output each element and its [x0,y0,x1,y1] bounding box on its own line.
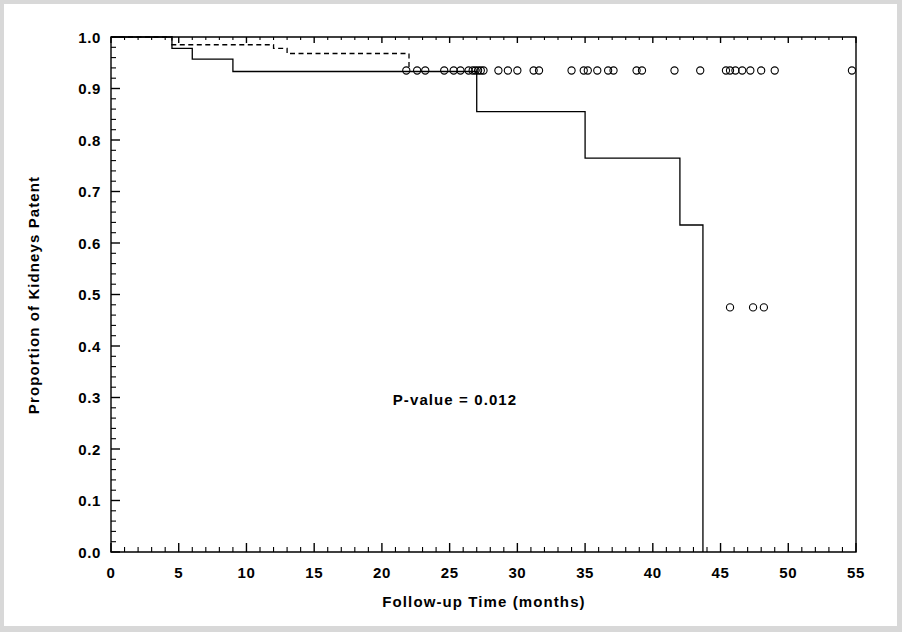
page-scan-edges [0,0,902,632]
y-tick-label: 0.3 [78,389,101,406]
censoring-mark [739,67,746,74]
x-axis-title: Follow-up Time (months) [382,593,585,610]
x-tick-label: 50 [779,564,797,581]
y-tick-label: 0.1 [78,492,101,509]
km-curve-solid [111,37,703,552]
censoring-mark [848,67,855,74]
censoring-mark [610,67,617,74]
censoring-mark [749,304,756,311]
censoring-marks-layer [403,67,856,311]
y-tick-label: 0.6 [78,235,101,252]
censoring-mark [504,67,511,74]
censoring-mark [726,304,733,311]
kaplan-meier-plot: 0510152025303540455055 0.00.10.20.30.40.… [0,0,902,632]
x-axis-ticks [111,37,856,552]
x-tick-label: 35 [576,564,594,581]
censoring-mark [568,67,575,74]
censoring-mark [760,304,767,311]
censoring-mark [414,67,421,74]
censoring-mark [671,67,678,74]
y-axis-ticks [111,37,120,552]
y-tick-label: 1.0 [78,29,101,46]
censoring-mark [638,67,645,74]
p-value-annotation: P-value = 0.012 [393,391,518,408]
x-axis-tick-labels: 0510152025303540455055 [107,564,865,581]
censoring-mark [594,67,601,74]
censoring-mark [697,67,704,74]
y-tick-label: 0.4 [78,338,101,355]
y-tick-label: 0.2 [78,441,101,458]
y-tick-label: 0.0 [78,544,101,561]
x-tick-label: 40 [644,564,662,581]
censoring-mark [441,67,448,74]
y-tick-label: 0.7 [78,183,101,200]
x-tick-label: 30 [508,564,526,581]
censoring-mark [450,67,457,74]
x-tick-label: 10 [238,564,256,581]
censoring-mark [457,67,464,74]
x-tick-label: 55 [847,564,865,581]
censoring-mark [771,67,778,74]
km-curve-dashed [111,37,409,70]
y-tick-label: 0.5 [78,286,101,303]
x-tick-label: 15 [305,564,323,581]
y-axis-tick-labels: 0.00.10.20.30.40.50.60.70.80.91.0 [78,29,101,561]
y-tick-label: 0.9 [78,80,101,97]
censoring-mark [732,67,739,74]
x-tick-label: 25 [441,564,459,581]
censoring-mark [495,67,502,74]
y-axis-title: Proportion of Kidneys Patent [25,176,42,414]
censoring-mark [758,67,765,74]
x-tick-label: 45 [712,564,730,581]
censoring-mark [514,67,521,74]
km-series-layer [111,37,703,552]
x-tick-label: 0 [107,564,116,581]
censoring-mark [422,67,429,74]
censoring-mark [747,67,754,74]
kaplan-meier-figure: 0510152025303540455055 0.00.10.20.30.40.… [0,0,902,632]
x-tick-label: 5 [174,564,183,581]
x-tick-label: 20 [373,564,391,581]
censoring-mark [403,67,410,74]
plot-frame [111,37,856,552]
y-tick-label: 0.8 [78,132,101,149]
censoring-mark [535,67,542,74]
